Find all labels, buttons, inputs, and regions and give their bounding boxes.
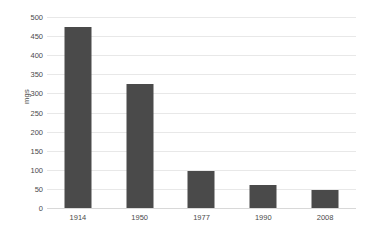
bar-slot xyxy=(232,17,294,208)
y-tick-label: 400 xyxy=(3,51,43,60)
y-tick-label: 150 xyxy=(3,146,43,155)
bar-slot xyxy=(109,17,171,208)
plot-area xyxy=(47,17,356,208)
bar-chart-figure: mgs 050100150200250300350400450500 19141… xyxy=(0,0,367,243)
bar[interactable] xyxy=(126,84,153,208)
y-tick-label: 300 xyxy=(3,89,43,98)
bar-slot xyxy=(294,17,356,208)
y-tick-label: 100 xyxy=(3,165,43,174)
bar[interactable] xyxy=(188,171,215,208)
bar[interactable] xyxy=(64,27,91,208)
axis-baseline xyxy=(47,208,356,209)
y-tick-label: 450 xyxy=(3,32,43,41)
y-tick-label: 350 xyxy=(3,70,43,79)
bar-slot xyxy=(47,17,109,208)
bar[interactable] xyxy=(312,190,339,208)
bars-layer xyxy=(47,17,356,208)
x-tick-label: 2008 xyxy=(285,213,365,222)
y-tick-label: 250 xyxy=(3,108,43,117)
y-tick-label: 500 xyxy=(3,13,43,22)
bar[interactable] xyxy=(250,185,277,208)
y-tick-label: 0 xyxy=(3,204,43,213)
y-tick-label: 50 xyxy=(3,184,43,193)
bar-slot xyxy=(171,17,233,208)
y-tick-label: 200 xyxy=(3,127,43,136)
